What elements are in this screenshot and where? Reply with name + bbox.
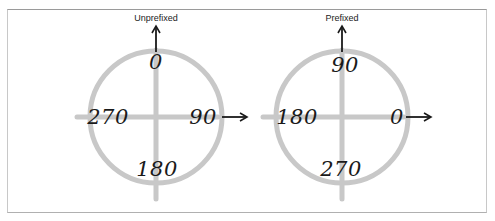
label-bottom: 270 — [319, 157, 362, 181]
label-top: 0 — [149, 50, 163, 74]
unprefixed-diagram: Unprefixed 0 90 180 270 — [77, 13, 247, 199]
label-left: 180 — [276, 105, 318, 129]
label-right: 90 — [189, 105, 217, 129]
label-right: 0 — [390, 105, 404, 129]
prefixed-title: Prefixed — [325, 13, 358, 23]
label-left: 270 — [86, 105, 129, 129]
label-top: 90 — [331, 53, 359, 77]
prefixed-diagram: Prefixed 90 0 270 180 — [263, 13, 431, 199]
label-bottom: 180 — [136, 157, 178, 181]
unprefixed-title: Unprefixed — [134, 13, 178, 23]
angle-diagrams: Unprefixed 0 90 180 270 Prefixed 90 0 27… — [0, 0, 495, 221]
